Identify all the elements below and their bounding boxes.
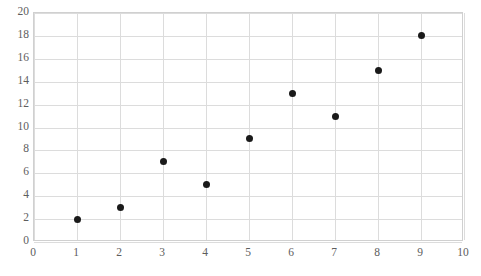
x-axis-tick-label: 8 — [374, 247, 380, 259]
x-axis-tick-label: 9 — [417, 247, 423, 259]
x-axis-tick-labels: 012345678910 — [0, 0, 481, 276]
x-axis-tick-label: 5 — [245, 247, 251, 259]
x-axis-tick-label: 10 — [457, 247, 469, 259]
scatter-chart: 02468101214161820 012345678910 — [0, 0, 481, 276]
x-axis-tick-label: 2 — [116, 247, 122, 259]
x-axis-tick-label: 4 — [202, 247, 208, 259]
x-axis-tick-label: 6 — [288, 247, 294, 259]
x-axis-tick-label: 7 — [331, 247, 337, 259]
x-axis-tick-label: 3 — [159, 247, 165, 259]
x-axis-tick-label: 0 — [30, 247, 36, 259]
x-axis-tick-label: 1 — [73, 247, 79, 259]
